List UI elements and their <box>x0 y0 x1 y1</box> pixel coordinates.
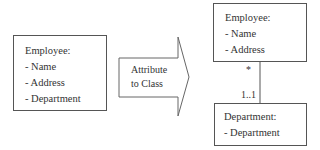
arrow-label-line1: Attribute <box>131 63 167 77</box>
target-employee-attribute-address: - Address <box>225 42 265 58</box>
target-department-attribute-department: - Department <box>224 125 280 141</box>
department-multiplicity: 1..1 <box>241 89 256 100</box>
source-employee-class-box: Employee: - Name - Address - Department <box>13 35 107 111</box>
source-class-title: Employee: <box>25 43 71 59</box>
target-employee-class-box: Employee: - Name - Address <box>213 3 307 62</box>
target-employee-attribute-name: - Name <box>225 26 256 42</box>
target-department-class-box: Department: - Department <box>214 103 307 146</box>
arrow-label-line2: to Class <box>131 77 163 91</box>
target-employee-title: Employee: <box>225 10 271 26</box>
source-attribute-department: - Department <box>25 91 81 107</box>
target-department-title: Department: <box>224 109 276 125</box>
source-attribute-address: - Address <box>25 75 65 91</box>
source-attribute-name: - Name <box>25 59 56 75</box>
employee-multiplicity: * <box>246 64 251 75</box>
